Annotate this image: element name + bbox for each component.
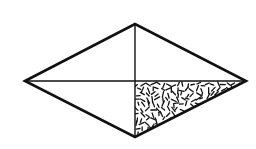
rhombus-diagram xyxy=(0,0,256,149)
